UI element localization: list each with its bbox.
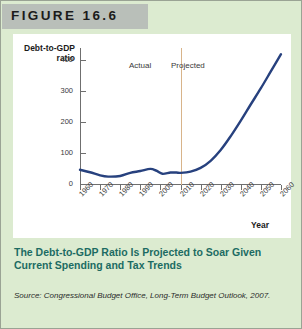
- figure-container: FIGURE 16.6 Debt-to-GDP ratio 0100200300…: [0, 0, 302, 329]
- figure-source: Source: Congressional Budget Office, Lon…: [14, 291, 286, 302]
- chart-panel: Debt-to-GDP ratio 0100200300400 19601970…: [13, 34, 291, 238]
- debt-to-gdp-line: [13, 34, 291, 238]
- figure-caption: The Debt-to-GDP Ratio Is Projected to So…: [14, 246, 290, 272]
- plot-area: Debt-to-GDP ratio 0100200300400 19601970…: [13, 34, 291, 238]
- x-axis-title: Year: [251, 220, 269, 230]
- figure-number-label: FIGURE 16.6: [11, 8, 118, 23]
